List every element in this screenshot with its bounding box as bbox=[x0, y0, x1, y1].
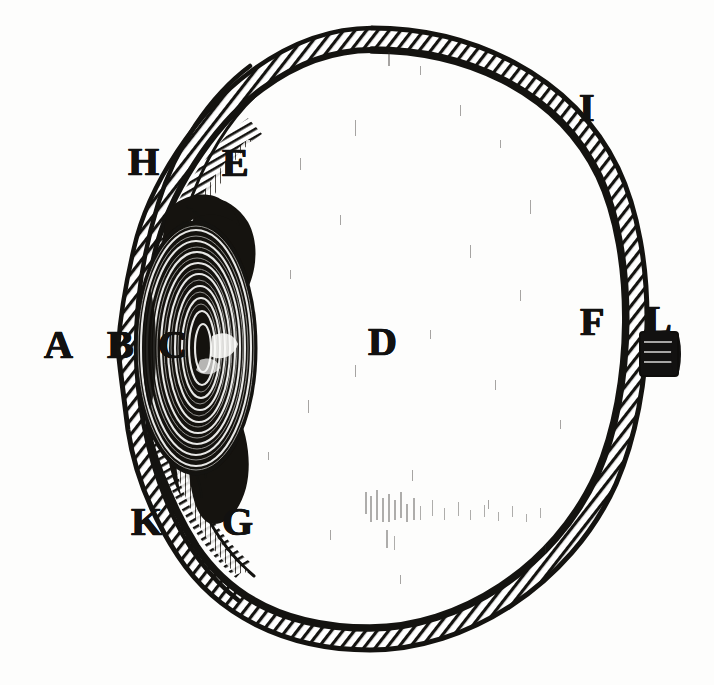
label-i: I bbox=[579, 88, 595, 128]
label-c: C bbox=[158, 325, 187, 365]
label-k: K bbox=[131, 502, 162, 542]
label-g: G bbox=[222, 502, 253, 542]
engraving-page: A B C D E F G H I K L bbox=[0, 0, 714, 685]
label-a: A bbox=[44, 325, 73, 365]
label-e: E bbox=[222, 143, 249, 183]
label-l: L bbox=[645, 300, 672, 340]
label-b: B bbox=[107, 325, 134, 365]
label-f: F bbox=[580, 302, 604, 342]
crystalline-lens bbox=[136, 222, 256, 474]
label-d: D bbox=[368, 322, 397, 362]
label-h: H bbox=[128, 142, 159, 182]
